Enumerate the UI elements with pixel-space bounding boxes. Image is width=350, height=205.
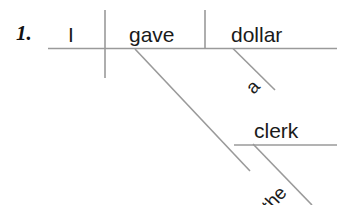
diagram-word-subject: I <box>68 24 74 45</box>
indirect-object-connector-line <box>135 49 250 171</box>
diagram-word-direct-object: dollar <box>231 24 282 45</box>
diagram-word-indirect-object: clerk <box>254 120 298 141</box>
sentence-diagram-page: 1. I gave dollar a clerk the <box>0 0 350 205</box>
diagram-word-verb: gave <box>129 24 175 45</box>
diagram-canvas <box>0 0 350 205</box>
exercise-number-label: 1. <box>16 23 32 44</box>
